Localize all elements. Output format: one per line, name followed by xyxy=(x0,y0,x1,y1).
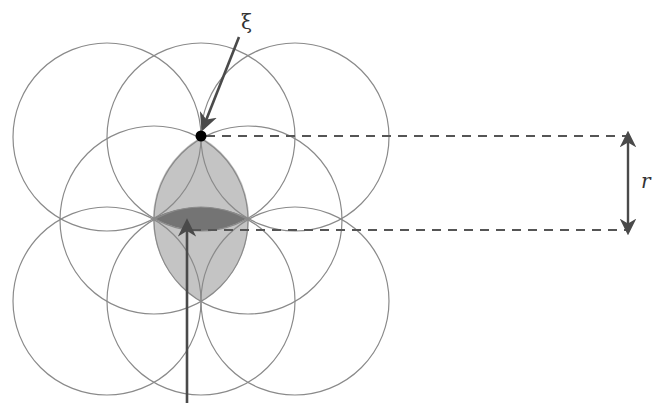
xi-label: ξ xyxy=(241,10,252,34)
circles-diagram xyxy=(0,0,660,410)
diagram-canvas: ξ r xyxy=(0,0,660,410)
xi-pointer-arrow xyxy=(203,37,239,128)
r-label: r xyxy=(641,169,651,193)
point-xi xyxy=(196,131,207,142)
